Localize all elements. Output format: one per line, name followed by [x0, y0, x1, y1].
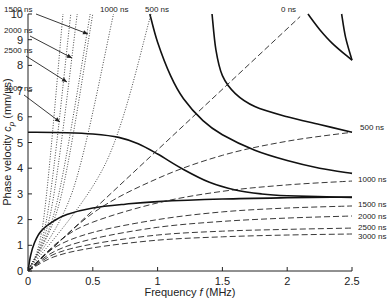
annotation-arrow: [26, 56, 67, 82]
x-tick-label: 0.5: [85, 275, 100, 287]
curve-layer: [28, 14, 352, 271]
x-tick-label: 2: [284, 275, 290, 287]
curve-dispersion-mode-a1: [150, 14, 352, 173]
curve-annotation: 500 ns: [145, 5, 169, 14]
curve-annotation: 0 ns: [281, 5, 296, 14]
y-tick-label: 5: [17, 137, 23, 149]
y-tick-label: 9: [17, 34, 23, 46]
annotation-arrow: [30, 36, 72, 58]
arrowhead-icon: [55, 117, 60, 122]
curve-annotation: 2000 ns: [358, 212, 386, 221]
x-tick-label: 0: [25, 275, 31, 287]
phase-velocity-chart: 00.511.522.5012345678910 1500 ns2000 ns2…: [0, 0, 389, 306]
y-tick-label: 2: [17, 214, 23, 226]
curve-500-ns-dotted: [28, 14, 151, 271]
curve-dispersion-mode-a0: [28, 197, 352, 271]
y-tick-label: 8: [17, 59, 23, 71]
y-tick-label: 3: [17, 188, 23, 200]
curve-3000-ns-dotted: [28, 14, 63, 271]
annotation-arrow: [24, 95, 60, 122]
y-axis-title: Phase velocity cp (mm/µs): [1, 78, 16, 206]
y-tick-label: 4: [17, 162, 23, 174]
curve-annotation: 1000 ns: [100, 5, 128, 14]
arrowhead-icon: [62, 77, 67, 82]
x-tick-label: 2.5: [344, 275, 359, 287]
curve-1500-ns-dotted: [28, 14, 93, 271]
curve-annotation: 2000 ns: [4, 26, 32, 35]
curve-500-ns: [28, 132, 352, 271]
curve-annotation: 3000 ns: [358, 232, 386, 241]
curve-annotation: 2500 ns: [4, 46, 32, 55]
curve-annotation: 2500 ns: [358, 223, 386, 232]
annotation-arrow: [36, 14, 88, 34]
curve-annotation: 500 ns: [360, 123, 384, 132]
curve-annotation: 1000 ns: [358, 175, 386, 184]
y-tick-label: 6: [17, 111, 23, 123]
curve-3000-ns: [28, 234, 352, 271]
curve-dispersion-mode-s1: [212, 14, 352, 132]
curve-annotation: 1500 ns: [4, 5, 32, 14]
y-tick-label: 0: [17, 265, 23, 277]
x-axis-title: Frequency f (MHz): [144, 286, 235, 298]
curve-annotation: 1500 ns: [358, 200, 386, 209]
curve-2000-ns: [28, 216, 352, 271]
axes: 00.511.522.5012345678910: [11, 8, 360, 287]
y-tick-label: 1: [17, 239, 23, 251]
